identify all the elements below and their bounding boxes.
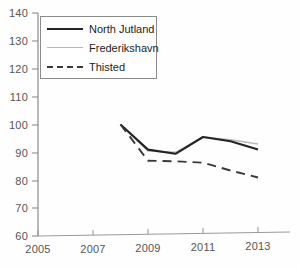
y-tick-label-110: 110 bbox=[2, 91, 28, 103]
series-line-frederikshavn bbox=[121, 125, 259, 153]
legend-item-thisted: Thisted bbox=[47, 59, 125, 75]
legend: North Jutland Frederikshavn Thisted bbox=[40, 16, 157, 79]
y-tick-label-120: 120 bbox=[2, 63, 28, 75]
legend-label-frederikshavn: Frederikshavn bbox=[89, 42, 159, 54]
y-tick-label-140: 140 bbox=[2, 7, 28, 19]
series-line-north-jutland bbox=[121, 125, 259, 154]
legend-label-north-jutland: North Jutland bbox=[89, 23, 154, 35]
legend-item-frederikshavn: Frederikshavn bbox=[47, 40, 159, 56]
x-axis-line bbox=[38, 232, 290, 236]
y-tick-label-100: 100 bbox=[2, 119, 28, 131]
legend-swatch-dashed-icon bbox=[47, 62, 83, 72]
legend-swatch-solid-dark-icon bbox=[47, 24, 83, 34]
y-tick-label-90: 90 bbox=[2, 147, 28, 159]
legend-item-north-jutland: North Jutland bbox=[47, 21, 154, 37]
x-tick-label-2013: 2013 bbox=[238, 240, 278, 252]
legend-label-thisted: Thisted bbox=[89, 61, 125, 73]
y-tick-label-70: 70 bbox=[2, 202, 28, 214]
x-tick-label-2009: 2009 bbox=[128, 242, 168, 254]
line-chart: 140 130 120 110 100 90 80 70 60 2005 200… bbox=[0, 0, 299, 269]
x-tick-label-2005: 2005 bbox=[18, 243, 58, 255]
y-axis-ticks bbox=[32, 13, 38, 236]
y-tick-label-130: 130 bbox=[2, 35, 28, 47]
y-tick-label-80: 80 bbox=[2, 175, 28, 187]
x-tick-label-2007: 2007 bbox=[73, 243, 113, 255]
y-tick-label-60: 60 bbox=[2, 230, 28, 242]
series-line-thisted bbox=[121, 125, 259, 178]
legend-swatch-solid-light-icon bbox=[47, 43, 83, 53]
x-tick-label-2011: 2011 bbox=[183, 241, 223, 253]
